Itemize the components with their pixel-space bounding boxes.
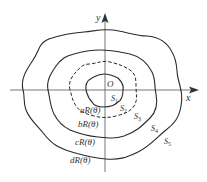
curve-label-d: dR(θ)	[70, 155, 90, 165]
region-label-s1: S1	[111, 94, 118, 104]
curve-c	[48, 50, 157, 138]
region-label-s3: S3	[134, 112, 141, 122]
curve-label-b: bR(θ)	[78, 119, 98, 129]
x-axis-label: x	[185, 92, 191, 103]
curve-d	[22, 30, 181, 160]
curve-label-a: aR(θ)	[80, 105, 100, 115]
region-label-s4: S4	[151, 124, 158, 134]
curve-label-c: cR(θ)	[75, 137, 95, 147]
y-axis-label: y	[95, 12, 101, 23]
region-label-s2: S2	[120, 104, 127, 114]
region-label-s5: S5	[164, 137, 171, 147]
origin-label: O	[107, 79, 114, 89]
diagram-canvas: y x O S1 S2 S3 S4 S5 aR(θ) bR(θ) cR(θ) d…	[0, 0, 207, 182]
